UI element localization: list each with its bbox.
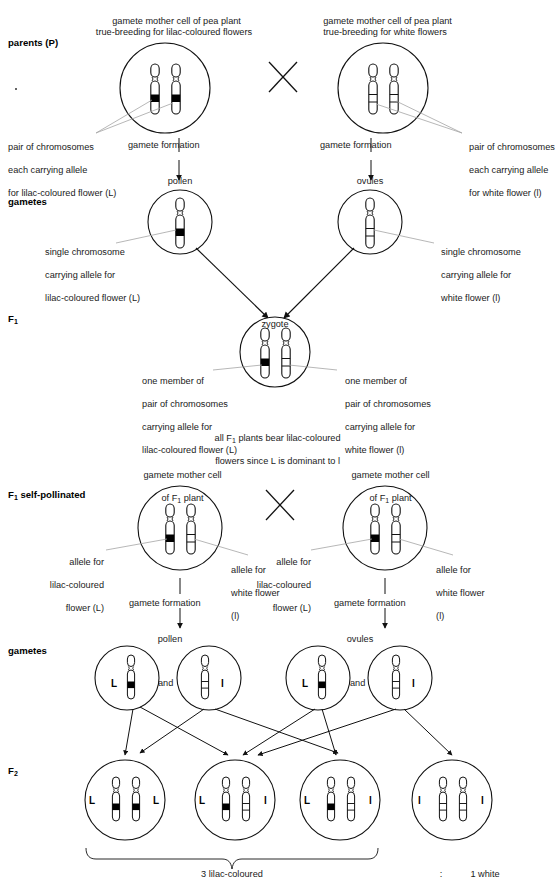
ovules-label-f1: ovules (330, 634, 390, 646)
parent-cell-right (338, 43, 428, 133)
f1-left-caption: gamete mother cell of F1 plant (110, 458, 250, 504)
gamete-formation-label-left-p: gamete formation (128, 140, 200, 152)
gametes1-right-annotation: single chromosome carrying allele for wh… (436, 235, 521, 305)
zygote-label: zygote (250, 319, 300, 331)
f2-fertilisation-arrows (125, 707, 452, 755)
f2-allele-1-left: L (89, 795, 95, 806)
ratio-separator: : (434, 869, 448, 881)
gamete-allele-4: l (412, 678, 415, 689)
parent-right-caption: gamete mother cell of pea planttrue-bree… (290, 4, 480, 39)
gamete-cell-ovule-L (286, 646, 350, 710)
gamete-cell-ovule-l (368, 646, 432, 710)
parent-cross-symbol (269, 62, 297, 92)
pollen-cell-p (148, 190, 212, 254)
f1-left-allele-lilac-annotation: allele for lilac-coloured flower (L) (8, 545, 104, 615)
stray-dot (15, 88, 17, 90)
ovule-cell-p (338, 190, 402, 254)
pollen-label-p: pollen (150, 176, 210, 188)
f1-cross-symbol (266, 490, 294, 520)
stage-label-gametes-2: gametes (8, 645, 47, 656)
f2-allele-3-left: L (304, 795, 310, 806)
f2-allele-2-left: L (199, 795, 205, 806)
stage-label-f2: F2 (8, 765, 18, 776)
parent-left-caption: gamete mother cell of pea planttrue-bree… (74, 4, 274, 39)
f2-cell-4 (412, 760, 492, 840)
f1-right-caption: gamete mother cell of F1 plant (318, 458, 458, 504)
stage-label-f1: F1 (8, 313, 18, 324)
and-label-right: and (350, 678, 365, 690)
f2-allele-3-right: l (369, 795, 372, 806)
f1-right-allele-lilac-annotation: allele for lilac-coloured flower (L) (215, 545, 311, 615)
ovules-label-p: ovules (340, 176, 400, 188)
gamete-allele-3: L (302, 678, 308, 689)
f1-right-allele-white-annotation: allele for white flower (l) (431, 553, 485, 623)
stage-label-f1-self-pollinated: F1 self-pollinated (8, 489, 85, 500)
f2-allele-1-right: L (153, 795, 159, 806)
parent-left-annotation: pair of chromosomes each carrying allele… (3, 130, 116, 200)
f2-cell-2 (195, 760, 275, 840)
gamete-formation-label-right-f1: gamete formation (334, 598, 406, 610)
parent-cell-left (120, 43, 210, 133)
fertilisation-arrow-left (196, 248, 268, 318)
and-label-left: and (158, 678, 173, 690)
stage-label-parents: parents (P) (8, 37, 58, 48)
gamete-cell-pollen-l (177, 646, 241, 710)
f2-cell-3 (300, 760, 380, 840)
gamete-allele-2: l (221, 678, 224, 689)
fertilisation-arrow-right (284, 248, 354, 318)
f2-allele-4-left: l (418, 795, 421, 806)
gamete-cell-pollen-L (95, 646, 159, 710)
gamete-formation-label-left-f1: gamete formation (129, 598, 201, 610)
gamete-formation-label-right-p: gamete formation (320, 140, 392, 152)
f2-allele-4-right: l (481, 795, 484, 806)
parent-right-annotation: pair of chromosomes each carrying allele… (464, 130, 555, 200)
ratio-white-label: 1 white (450, 869, 520, 881)
ratio-lilac-label: 3 lilac-coloured (172, 869, 292, 881)
f2-allele-2-right: l (264, 795, 267, 806)
gametes1-left-annotation: single chromosome carrying allele for li… (40, 235, 140, 305)
ratio-brace (86, 848, 378, 869)
gamete-allele-1: L (111, 678, 117, 689)
pollen-label-f1: pollen (140, 634, 200, 646)
